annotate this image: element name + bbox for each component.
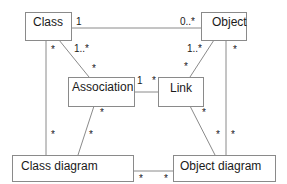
node-label: Class diagram xyxy=(21,159,98,173)
mult-association-classdiagram-to: * xyxy=(89,129,93,140)
mult-class-classdiagram-to: * xyxy=(51,129,55,140)
node-class[interactable]: Class xyxy=(26,13,72,41)
node-label: Object diagram xyxy=(180,159,261,173)
mult-class-classdiagram-from: * xyxy=(51,44,55,55)
node-object-diagram[interactable]: Object diagram xyxy=(174,156,276,182)
node-label: Class xyxy=(33,15,63,29)
mult-object-objectdiagram-from: * xyxy=(233,44,237,55)
mult-class-object-to: 0..* xyxy=(180,16,195,27)
mult-object-link-to: * xyxy=(184,61,188,72)
mult-association-classdiagram-from: * xyxy=(100,107,104,118)
mult-classdiagram-objectdiagram-to: * xyxy=(164,173,168,184)
node-class-diagram[interactable]: Class diagram xyxy=(13,156,134,182)
node-link[interactable]: Link xyxy=(159,78,204,107)
mult-class-association-to: * xyxy=(92,63,96,74)
mult-association-link-to: * xyxy=(152,75,156,86)
node-label: Link xyxy=(170,81,193,95)
node-association[interactable]: Association xyxy=(69,78,135,107)
mult-class-object-from: 1 xyxy=(76,16,82,27)
mult-link-objectdiagram-from: * xyxy=(202,107,206,118)
node-label: Object xyxy=(212,15,247,29)
mult-link-objectdiagram-to: * xyxy=(216,129,220,140)
mult-class-association-from: 1..* xyxy=(74,43,89,54)
uml-metamodel-diagram: Class Object Association Link Class diag… xyxy=(0,0,287,184)
mult-association-link-from: 1 xyxy=(137,75,143,86)
node-label: Association xyxy=(72,80,133,94)
mult-object-objectdiagram-to: * xyxy=(231,129,235,140)
node-object[interactable]: Object xyxy=(202,13,248,41)
mult-object-link-from: 1..* xyxy=(187,43,202,54)
mult-classdiagram-objectdiagram-from: * xyxy=(139,173,143,184)
